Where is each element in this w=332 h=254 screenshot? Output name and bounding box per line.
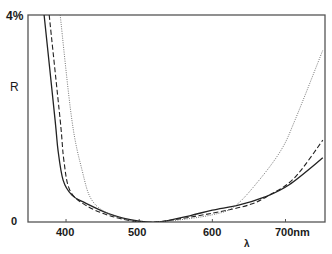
data-series [44, 15, 323, 222]
y-axis-max-label: 4% [6, 10, 23, 22]
plot-frame [28, 15, 325, 222]
x-axis-label: λ [244, 239, 250, 249]
series-dashed-line [49, 15, 323, 222]
x-tick-label-400: 400 [56, 227, 74, 238]
x-tick-label-700nm: 700nm [275, 227, 310, 238]
cutoff-caption-text [0, 249, 332, 254]
series-solid-line [44, 15, 323, 222]
x-tick-label-600: 600 [203, 227, 221, 238]
y-axis-zero-label: 0 [11, 216, 17, 227]
x-tick-label-500: 500 [128, 227, 146, 238]
reflectance-chart [0, 0, 332, 254]
y-axis-label: R [10, 81, 19, 93]
series-dotted-line [60, 15, 323, 222]
